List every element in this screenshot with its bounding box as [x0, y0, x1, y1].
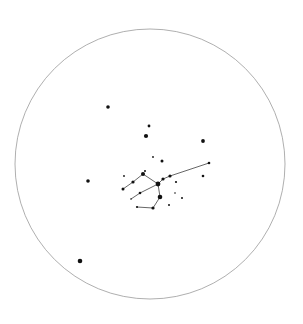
star-icon [141, 172, 145, 176]
star-icon [130, 198, 132, 200]
star-icon [202, 175, 205, 178]
star-icon [144, 170, 146, 172]
sky-boundary-circle [15, 29, 285, 299]
star-icon [139, 192, 142, 195]
star-icon [136, 206, 138, 208]
star-icon [156, 182, 161, 187]
star-icon [123, 175, 125, 177]
star-chart [0, 0, 303, 324]
star-icon [174, 192, 176, 194]
star-icon [122, 188, 125, 191]
star-icon [78, 259, 83, 264]
star-icon [168, 174, 171, 177]
star-icon [161, 177, 164, 180]
star-icon [144, 134, 148, 138]
star-icon [106, 105, 110, 109]
star-icon [201, 139, 205, 143]
star-icon [181, 197, 183, 199]
star-icon [148, 125, 151, 128]
star-icon [161, 160, 164, 163]
star-icon [86, 179, 90, 183]
star-icon [152, 156, 154, 158]
star-icon [158, 195, 163, 200]
star-icon [168, 204, 170, 206]
star-icon [151, 206, 154, 209]
star-icon [175, 181, 177, 183]
star-icon [208, 162, 211, 165]
star-icon [131, 180, 134, 183]
